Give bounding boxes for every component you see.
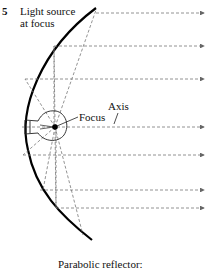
figure-caption: Parabolic reflector:: [58, 259, 143, 270]
light-source-label-2: at focus: [20, 18, 55, 29]
figure-number: 5: [2, 6, 8, 17]
light-bulb-icon: [25, 111, 67, 141]
parabolic-reflector-diagram: [0, 0, 210, 270]
focus-label: Focus: [79, 112, 105, 123]
light-source-label: Light source: [20, 6, 75, 17]
focus-point: [52, 124, 58, 130]
axis-label: Axis: [108, 101, 129, 112]
